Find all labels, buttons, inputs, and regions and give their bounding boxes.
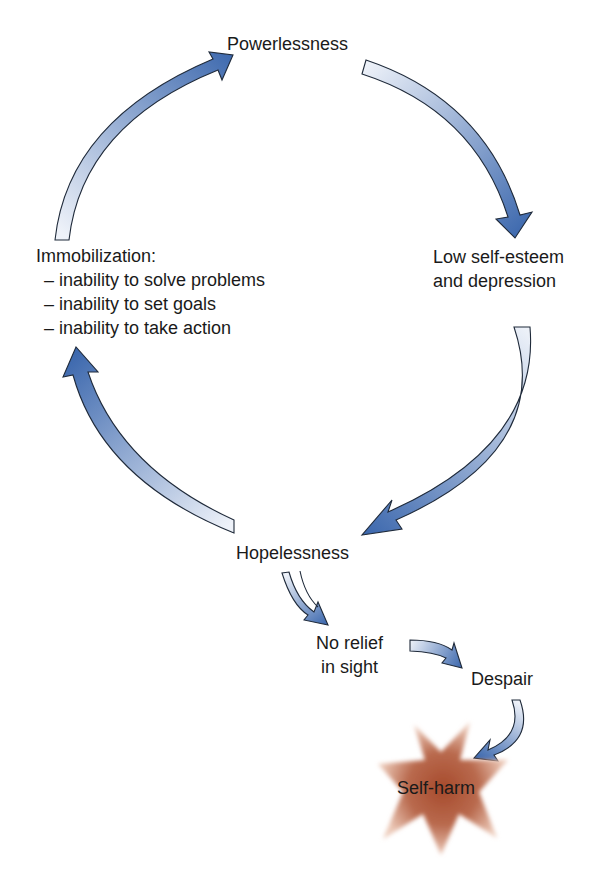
immobilization-title: Immobilization: [36, 244, 265, 268]
arrow-hopelessness-to-immobilization [63, 347, 234, 533]
node-low-self-esteem-line1: Low self-esteem [433, 245, 564, 269]
node-no-relief-line1: No relief [316, 631, 383, 655]
node-powerlessness: Powerlessness [227, 32, 348, 56]
node-self-harm: Self-harm [397, 776, 475, 800]
node-low-self-esteem-line2: and depression [433, 269, 564, 293]
immobilization-item: – inability to take action [36, 316, 265, 340]
node-no-relief: No relief in sight [316, 631, 383, 679]
arrow-powerlessness-to-low-self-esteem [362, 60, 532, 238]
immobilization-item: – inability to set goals [36, 292, 265, 316]
immobilization-item: – inability to solve problems [36, 268, 265, 292]
arrow-hopelessness-to-no-relief [282, 571, 328, 625]
node-hopelessness: Hopelessness [236, 541, 349, 565]
node-despair: Despair [471, 667, 533, 691]
arrow-no-relief-to-despair [410, 640, 462, 668]
diagram-canvas [0, 0, 600, 869]
arrow-immobilization-to-powerlessness [55, 52, 233, 240]
node-immobilization: Immobilization: – inability to solve pro… [36, 244, 265, 340]
node-low-self-esteem: Low self-esteem and depression [433, 245, 564, 293]
arrow-low-self-esteem-to-hopelessness [362, 327, 531, 535]
arrow-despair-to-self-harm [474, 700, 524, 761]
node-no-relief-line2: in sight [316, 655, 383, 679]
immobilization-list: – inability to solve problems – inabilit… [36, 268, 265, 340]
